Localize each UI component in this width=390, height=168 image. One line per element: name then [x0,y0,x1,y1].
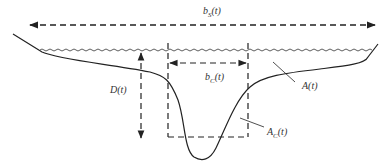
channel-width-label: bC(t) [205,71,224,85]
label-argument: (t) [278,126,287,137]
channel-area-label: AC(t) [267,126,287,140]
diagram-canvas [0,0,390,168]
surface-width-label: bS(t) [203,5,221,19]
channel-area-leader [240,118,264,127]
label-argument: (t) [212,5,221,16]
channel-cross-section-diagram: bS(t) bC(t) D(t) A(t) AC(t) [0,0,390,168]
total-area-leader [273,62,295,82]
channel-bed-profile [13,34,378,160]
total-area-label: A(t) [302,80,318,91]
label-argument: (t) [215,71,224,82]
depth-label: D(t) [110,84,127,95]
water-surface-line [40,49,372,51]
